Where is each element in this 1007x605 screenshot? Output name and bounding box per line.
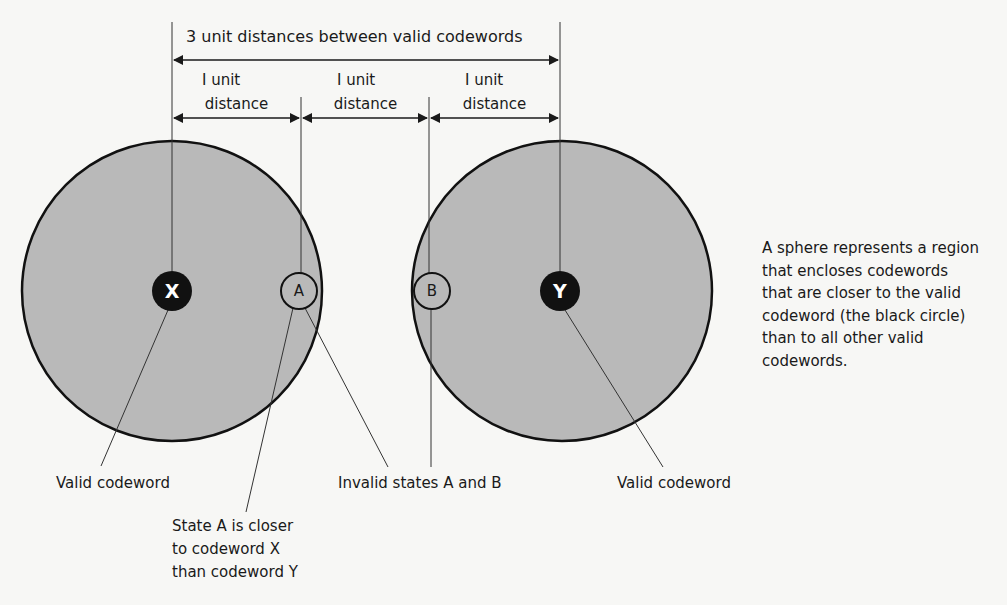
unit-label-line2: distance	[431, 92, 558, 116]
codeword-y-label: Y	[550, 281, 570, 301]
state-a-label: A	[289, 282, 309, 300]
sphere-description: A sphere represents a region that enclos…	[762, 237, 1002, 372]
description-line: than to all other valid	[762, 327, 1002, 350]
state-a-note-line2: to codeword X	[172, 538, 298, 561]
unit-label-line2: distance	[303, 92, 428, 116]
valid-codeword-right-label: Valid codeword	[617, 474, 731, 492]
description-line: A sphere represents a region	[762, 237, 1002, 260]
unit-label-line1: I unit	[174, 68, 299, 92]
state-a-note-line3: than codeword Y	[172, 561, 298, 584]
leader-a-invalid	[305, 308, 388, 467]
unit-distance-label-2: I unit distance	[303, 68, 428, 116]
description-line: that are closer to the valid	[762, 282, 1002, 305]
description-line: that encloses codewords	[762, 260, 1002, 283]
unit-label-line1: I unit	[303, 68, 428, 92]
invalid-states-label: Invalid states A and B	[338, 474, 502, 492]
description-line: codeword (the black circle)	[762, 305, 1002, 328]
total-distance-label: 3 unit distances between valid codewords	[186, 28, 523, 46]
description-line: codewords.	[762, 350, 1002, 373]
state-a-note: State A is closer to codeword X than cod…	[172, 515, 298, 584]
unit-distance-label-1: I unit distance	[174, 68, 299, 116]
state-b-label: B	[422, 282, 442, 300]
unit-label-line2: distance	[174, 92, 299, 116]
unit-label-line1: I unit	[431, 68, 558, 92]
unit-distance-label-3: I unit distance	[431, 68, 558, 116]
codeword-x-label: X	[162, 281, 182, 301]
state-a-note-line1: State A is closer	[172, 515, 298, 538]
valid-codeword-left-label: Valid codeword	[56, 474, 170, 492]
